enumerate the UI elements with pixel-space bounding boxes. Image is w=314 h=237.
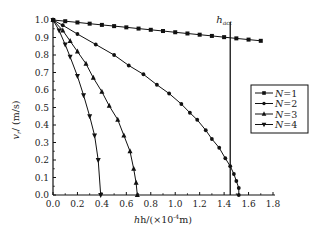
x-tick-label: 1.8 <box>266 199 281 209</box>
line-chart: 0.00.20.40.60.81.01.21.41.61.80.00.10.20… <box>0 0 314 237</box>
x-tick-label: 1.4 <box>217 199 232 209</box>
y-tick-label: 0.9 <box>35 33 50 43</box>
y-tick-label: 0.8 <box>35 50 50 60</box>
x-tick-label: 0.2 <box>70 199 84 209</box>
x-tick-label: 0.4 <box>95 199 110 209</box>
x-tick-label: 1.2 <box>193 199 207 209</box>
y-tick-label: 0.6 <box>35 85 50 95</box>
y-axis-label: vr/ (m/s) <box>10 101 22 140</box>
h-act-label: hact <box>216 14 232 26</box>
legend-label: N=4 <box>274 119 297 130</box>
x-tick-label: 0.6 <box>119 199 134 209</box>
y-tick-label: 0.0 <box>35 190 50 200</box>
series-layer <box>51 17 263 198</box>
legend-label: N=1 <box>274 88 297 99</box>
x-tick-label: 0.8 <box>144 199 159 209</box>
series-n-2 <box>51 18 241 197</box>
x-tick-label: 1.6 <box>241 199 256 209</box>
h-act-annotation: hact <box>216 14 232 195</box>
axes: 0.00.20.40.60.81.01.21.41.61.80.00.10.20… <box>35 15 281 209</box>
x-tick-label: 0.0 <box>46 199 61 209</box>
x-tick-label: 1.0 <box>168 199 183 209</box>
legend-label: N=2 <box>274 98 297 109</box>
y-tick-label: 0.4 <box>35 120 50 130</box>
y-tick-label: 0.2 <box>35 155 49 165</box>
y-tick-label: 0.3 <box>35 138 50 148</box>
legend-label: N=3 <box>274 109 297 120</box>
y-tick-label: 0.5 <box>35 103 50 113</box>
y-tick-label: 0.7 <box>35 68 50 78</box>
x-axis-label: hh/(×10-4m) <box>134 213 192 225</box>
legend: N=1N=2N=3N=4 <box>251 85 308 133</box>
y-tick-label: 1.0 <box>35 15 50 25</box>
y-tick-label: 0.1 <box>35 173 49 183</box>
